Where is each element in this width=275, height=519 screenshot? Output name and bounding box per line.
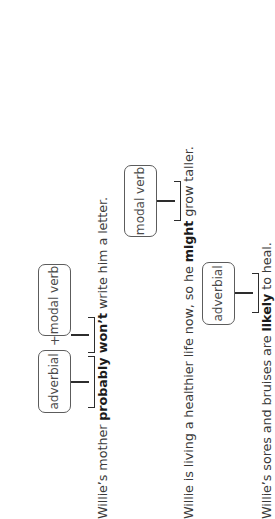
sentence-1-highlight: probably won’t [95,313,110,421]
bracket-modal-verb-1 [88,317,95,353]
sentence-3-highlight: likely [259,294,265,332]
bracket-adverbial-3 [252,273,259,313]
connector-stem-adverbial-1 [71,381,89,383]
label-box-adverbial-1[interactable]: adverbial [38,350,71,413]
sentence-3-text-after: to heal. [259,242,265,294]
sentence-1-text-after: write him a letter. [95,197,110,313]
plus-sign-1: + [48,335,61,346]
sentence-3: Willie’s sores and bruises are likely to… [259,242,265,519]
sentence-2: Willie is living a healthier life now, s… [181,146,196,519]
sentence-1-text-before: Willie’s mother [95,421,110,519]
connector-stem-modal-verb-2 [157,200,175,202]
bracket-adverbial-1 [88,356,95,408]
diagram-canvas: Willie’s mother probably won’t write him… [0,0,265,519]
sentence-2-text-after: grow taller. [181,146,196,220]
sentence-3-text-before: Willie’s sores and bruises are [259,332,265,519]
label-box-adverbial-3[interactable]: adverbial [202,262,235,325]
connector-stem-adverbial-3 [235,292,253,294]
label-box-modal-verb-1[interactable]: modal verb [38,264,71,336]
sentence-1: Willie’s mother probably won’t write him… [95,197,110,519]
bracket-modal-verb-2 [174,181,181,221]
sentence-2-highlight: might [181,221,196,263]
label-box-modal-verb-2[interactable]: modal verb [124,165,157,237]
sentence-2-text-before: Willie is living a healthier life now, s… [181,262,196,519]
connector-stem-modal-verb-1 [71,334,89,336]
